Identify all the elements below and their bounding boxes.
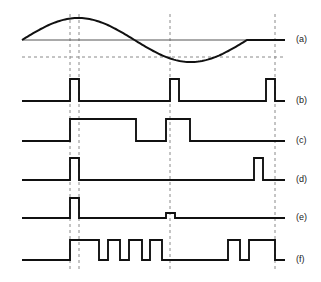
trace-label-a: (a) [296,34,307,44]
trace-label-b: (b) [296,95,307,105]
trace-label-e: (e) [296,212,307,222]
trace-label-c: (c) [296,135,307,145]
trace-label-f: (f) [296,254,305,264]
waveform-timing-diagram: (a)(b)(c)(d)(e)(f) [0,0,321,282]
trace-label-d: (d) [296,174,307,184]
